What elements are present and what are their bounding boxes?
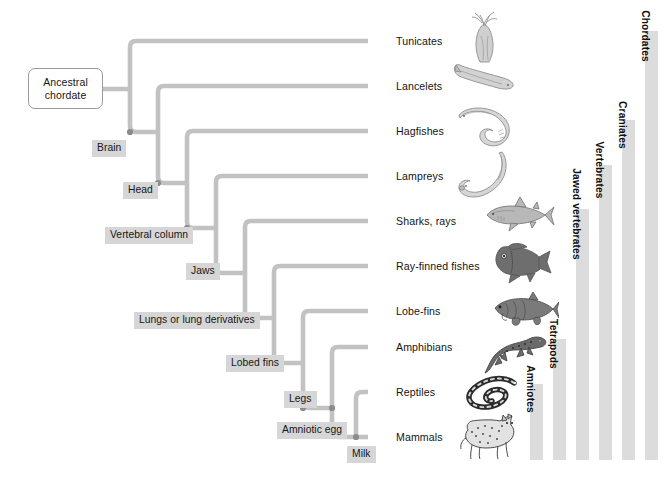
taxon-label-sharks-rays: Sharks, rays: [396, 216, 456, 227]
node-label-lungs: Lungs or lung derivatives: [134, 312, 260, 329]
node-label-head: Head: [123, 182, 158, 199]
ancestral-chordate-line2: chordate: [45, 89, 87, 101]
taxon-label-mammals: Mammals: [396, 432, 443, 443]
clade-label-jawed-vertebrates: Jawed vertebrates: [570, 168, 583, 259]
phylogenetic-tree-figure: .br { fill:none; stroke:#c2c2c2; stroke-…: [0, 0, 670, 481]
clade-label-vertebrates: Vertebrates: [593, 141, 606, 198]
node-label-brain: Brain: [92, 140, 126, 157]
branch-vertebral-lower: [187, 183, 216, 228]
taxon-label-lancelets: Lancelets: [396, 81, 442, 92]
clade-bar-tetrapods: Tetrapods: [553, 339, 566, 460]
clade-label-craniates: Craniates: [616, 101, 629, 149]
taxon-label-tunicates: Tunicates: [396, 36, 442, 47]
clade-bar-vertebrates: Vertebrates: [599, 165, 612, 460]
taxon-label-reptiles: Reptiles: [396, 387, 435, 398]
clade-bar-craniates: Craniates: [622, 120, 635, 460]
node-label-milk: Milk: [347, 446, 376, 463]
taxon-label-amphibians: Amphibians: [396, 342, 452, 353]
clade-bar-chordates: Chordates: [645, 31, 658, 460]
node-label-vertebral-column: Vertebral column: [105, 227, 193, 244]
taxon-label-lobe-fins: Lobe-fins: [396, 306, 440, 317]
node-label-amniotic-egg: Amniotic egg: [277, 422, 347, 439]
branch-jaws-lower: [216, 228, 245, 273]
branch-to-amphibians: [332, 347, 368, 408]
clade-label-amniotes: Amniotes: [524, 365, 537, 413]
ancestral-chordate-line1: Ancestral: [43, 76, 88, 88]
branch-head-lower: [158, 132, 187, 183]
branch-brain-lower: [130, 89, 158, 132]
branch-to-tunicates: [130, 41, 368, 89]
clade-label-chordates: Chordates: [639, 10, 652, 62]
node-label-jaws: Jaws: [186, 263, 220, 280]
node-dot-brain: [127, 129, 133, 135]
node-dot-amniotic-egg: [329, 405, 335, 411]
node-label-lobed-fins: Lobed fins: [226, 355, 284, 372]
node-label-legs: Legs: [284, 391, 317, 408]
taxon-label-ray-finned-fishes: Ray-finned fishes: [396, 261, 480, 272]
ancestral-chordate-box: Ancestral chordate: [28, 68, 103, 109]
node-dot-milk: [353, 434, 359, 440]
taxon-label-hagfishes: Hagfishes: [396, 126, 444, 137]
branch-to-reptiles: [356, 392, 368, 437]
branch-to-lancelets: [158, 86, 368, 132]
clade-label-tetrapods: Tetrapods: [547, 319, 560, 369]
branch-to-lobe-fins: [303, 311, 368, 363]
clade-bar-amniotes: Amniotes: [530, 384, 543, 460]
clade-bar-jawed-vertebrates: Jawed vertebrates: [576, 209, 589, 460]
taxon-label-lampreys: Lampreys: [396, 171, 443, 182]
